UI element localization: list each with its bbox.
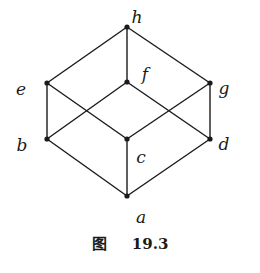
node-label-f: f <box>140 64 151 84</box>
node-label-c: c <box>136 147 146 167</box>
node-label-g: g <box>219 78 230 98</box>
node-e <box>44 80 49 85</box>
caption-number: 19.3 <box>132 235 169 253</box>
node-label-a: a <box>136 207 146 227</box>
node-label-b: b <box>17 135 28 155</box>
figure-caption: 图 19.3 <box>0 232 260 253</box>
node-g <box>207 80 212 85</box>
node-label-e: e <box>16 79 26 99</box>
node-a <box>124 193 129 198</box>
node-d <box>207 136 212 141</box>
diagram-edges <box>47 27 210 196</box>
node-label-d: d <box>219 134 230 154</box>
edge-h-g <box>127 27 210 83</box>
node-f <box>124 79 129 84</box>
edge-h-e <box>47 27 127 83</box>
node-label-h: h <box>132 7 143 27</box>
node-b <box>44 136 49 141</box>
node-h <box>124 24 129 29</box>
node-c <box>124 136 129 141</box>
diagram-nodes <box>44 24 212 198</box>
caption-prefix: 图 <box>92 235 107 253</box>
edge-b-a <box>47 139 127 196</box>
